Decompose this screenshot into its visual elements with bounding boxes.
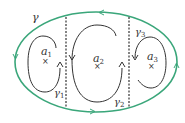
label-gamma1: γ1 (54, 87, 64, 100)
point-a3: × (148, 62, 155, 71)
arrow-icon (119, 62, 125, 67)
contour-diagram: γ a1 × γ1 a2 × γ2 a3 × γ3 (0, 0, 185, 123)
label-gamma3: γ3 (135, 26, 145, 39)
arrow-icon (57, 62, 63, 67)
label-gamma2: γ2 (114, 96, 124, 109)
point-a1: × (42, 57, 49, 66)
label-gamma: γ (32, 11, 39, 24)
point-a2: × (94, 62, 101, 71)
